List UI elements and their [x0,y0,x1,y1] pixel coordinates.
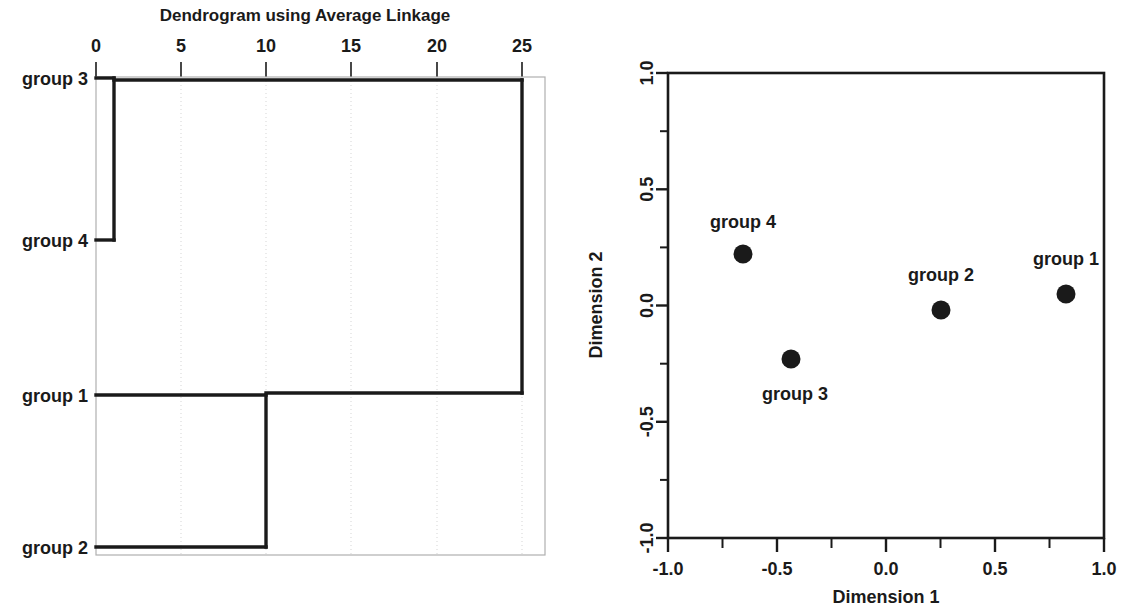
dendrogram-tick-label-5: 5 [176,36,186,56]
scatter-y-axis-label: Dimension 2 [586,251,606,358]
scatter-x-tick-label-4: 0.5 [982,559,1007,579]
dendrogram-leaf-label-group-1: group 1 [22,386,88,406]
scatter-x-tick-label-2: -0.5 [761,559,792,579]
scatter-y-tick-label-3: 0.0 [637,293,657,318]
scatter-y-tick-label-2: 0.5 [637,177,657,202]
scatter-point-group-3[interactable] [782,350,801,369]
dendrogram-x-tick-marks [96,62,522,77]
scatter-y-tick-labels: 1.0 0.5 0.0 -0.5 -1.0 [637,60,657,553]
scatter-y-tick-label-1: 1.0 [637,60,657,85]
dendrogram-tick-label-15: 15 [341,36,361,56]
scatter-panel: 1.0 0.5 0.0 -0.5 -1.0 -1.0 -0.5 0.0 0.5 … [570,0,1139,613]
scatter-point-group-2[interactable] [932,301,951,320]
scatter-point-labels: group 4 group 3 group 2 group 1 [710,212,1099,404]
scatter-points [734,245,1076,369]
figure-root: Dendrogram using Average Linkage 0 5 10 … [0,0,1139,613]
scatter-point-group-4[interactable] [734,245,753,264]
dendrogram-title: Dendrogram using Average Linkage [160,6,451,25]
scatter-plot-frame [668,73,1104,538]
scatter-svg: 1.0 0.5 0.0 -0.5 -1.0 -1.0 -0.5 0.0 0.5 … [570,0,1139,613]
dendrogram-plot-frame [96,77,545,555]
dendrogram-tick-label-20: 20 [427,36,447,56]
scatter-point-label-group-4: group 4 [710,212,776,232]
scatter-x-tick-label-1: -1.0 [652,559,683,579]
dendrogram-leaf-label-group-4: group 4 [22,231,88,251]
scatter-x-tick-labels: -1.0 -0.5 0.0 0.5 1.0 [652,559,1116,579]
dendrogram-tree [96,78,522,547]
scatter-y-tick-label-4: -0.5 [637,406,657,437]
scatter-x-tick-label-5: 1.0 [1091,559,1116,579]
dendrogram-svg: Dendrogram using Average Linkage 0 5 10 … [0,0,570,613]
dendrogram-panel: Dendrogram using Average Linkage 0 5 10 … [0,0,570,613]
scatter-point-label-group-2: group 2 [908,265,974,285]
scatter-point-label-group-3: group 3 [762,384,828,404]
dendrogram-tick-label-10: 10 [256,36,276,56]
dendrogram-tick-label-0: 0 [91,36,101,56]
dendrogram-tick-label-25: 25 [512,36,532,56]
dendrogram-leaf-labels: group 3 group 4 group 1 group 2 [22,69,88,558]
scatter-point-group-1[interactable] [1057,285,1076,304]
scatter-x-axis-label: Dimension 1 [832,587,939,607]
dendrogram-leaf-label-group-3: group 3 [22,69,88,89]
dendrogram-x-tick-labels: 0 5 10 15 20 25 [91,36,532,56]
scatter-y-tick-label-5: -1.0 [637,522,657,553]
dendrogram-leaf-label-group-2: group 2 [22,538,88,558]
scatter-x-tick-label-3: 0.0 [873,559,898,579]
scatter-x-major-ticks [668,538,1104,552]
scatter-y-major-ticks [656,73,668,538]
scatter-point-label-group-1: group 1 [1033,249,1099,269]
dendrogram-gridlines [181,77,522,555]
